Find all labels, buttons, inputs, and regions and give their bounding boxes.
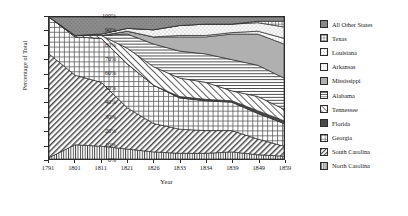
x-tick-mark <box>153 160 154 163</box>
legend-swatch-icon <box>320 162 328 170</box>
x-tick-mark <box>101 160 102 163</box>
y-tick-mark <box>44 146 48 147</box>
legend-item-texas[interactable]: Texas <box>320 31 408 45</box>
legend-swatch-icon <box>320 148 328 156</box>
y-tick-mark <box>44 102 48 103</box>
x-tick-label: 1839 <box>218 164 246 171</box>
y-tick-mark <box>44 88 48 89</box>
y-tick-label: 90% <box>105 27 116 33</box>
legend-label: All Other States <box>332 21 372 28</box>
legend-item-all-other-states[interactable]: All Other States <box>320 17 408 31</box>
x-tick-label: 1859 <box>271 164 299 171</box>
x-axis-label: Year <box>48 178 285 185</box>
legend-item-north-carolina[interactable]: North Carolina <box>320 159 408 173</box>
y-tick-label: 70% <box>105 56 116 62</box>
area-series-group <box>49 17 284 159</box>
legend-swatch-icon <box>320 134 328 142</box>
y-tick-label: 40% <box>105 99 116 105</box>
y-tick-mark <box>44 117 48 118</box>
x-tick-label: 1821 <box>113 164 141 171</box>
y-tick-mark <box>44 16 48 17</box>
x-tick-label: 1811 <box>87 164 115 171</box>
x-tick-mark <box>180 160 181 163</box>
legend-label: Georgia <box>332 134 352 141</box>
y-tick-mark <box>44 30 48 31</box>
legend-item-georgia[interactable]: Georgia <box>320 131 408 145</box>
legend-item-florida[interactable]: Florida <box>320 116 408 130</box>
x-tick-mark <box>74 160 75 163</box>
legend-label: Tennessee <box>332 106 358 113</box>
x-tick-label: 1833 <box>166 164 194 171</box>
x-tick-mark <box>206 160 207 163</box>
legend-label: Texas <box>332 35 347 42</box>
legend-swatch-icon <box>320 34 328 42</box>
y-tick-label: 100% <box>102 13 116 19</box>
y-tick-mark <box>44 131 48 132</box>
y-tick-label: 80% <box>105 42 116 48</box>
legend-item-arkansas[interactable]: Arkansas <box>320 60 408 74</box>
legend-swatch-icon <box>320 119 328 127</box>
x-tick-mark <box>48 160 49 163</box>
chart-legend: All Other StatesTexasLouisianaArkansasMi… <box>320 17 408 173</box>
legend-label: Florida <box>332 120 350 127</box>
legend-item-alabama[interactable]: Alabama <box>320 88 408 102</box>
legend-item-mississippi[interactable]: Mississippi <box>320 74 408 88</box>
x-tick-mark <box>285 160 286 163</box>
legend-swatch-icon <box>320 91 328 99</box>
legend-swatch-icon <box>320 63 328 71</box>
x-tick-label: 1801 <box>60 164 88 171</box>
y-tick-label: 30% <box>105 114 116 120</box>
y-tick-mark <box>44 74 48 75</box>
x-tick-mark <box>232 160 233 163</box>
y-tick-label: 60% <box>105 70 116 76</box>
x-tick-label: 1826 <box>139 164 167 171</box>
x-tick-mark <box>259 160 260 163</box>
legend-item-louisiana[interactable]: Louisiana <box>320 45 408 59</box>
x-tick-label: 1791 <box>34 164 62 171</box>
legend-item-tennessee[interactable]: Tennessee <box>320 102 408 116</box>
legend-label: Alabama <box>332 92 355 99</box>
y-tick-mark <box>44 59 48 60</box>
legend-swatch-icon <box>320 48 328 56</box>
chart-figure: 0%10%20%30%40%50%60%70%80%90%100% Percen… <box>0 0 408 216</box>
stacked-area-svg <box>49 17 284 159</box>
x-tick-mark <box>127 160 128 163</box>
legend-swatch-icon <box>320 77 328 85</box>
plot-area <box>48 16 285 160</box>
y-tick-label: 20% <box>105 128 116 134</box>
x-tick-label: 1849 <box>245 164 273 171</box>
y-tick-label: 0% <box>108 157 116 163</box>
y-tick-label: 10% <box>105 142 116 148</box>
legend-label: North Carolina <box>332 162 370 169</box>
y-tick-label: 50% <box>105 85 116 91</box>
x-tick-label: 1834 <box>192 164 220 171</box>
legend-item-south-carolina[interactable]: South Carolina <box>320 145 408 159</box>
legend-label: Louisiana <box>332 49 357 56</box>
legend-label: Arkansas <box>332 63 355 70</box>
legend-swatch-icon <box>320 20 328 28</box>
legend-label: Mississippi <box>332 77 361 84</box>
legend-swatch-icon <box>320 105 328 113</box>
y-axis-label: Percentage of Total <box>21 18 28 114</box>
legend-label: South Carolina <box>332 148 370 155</box>
y-tick-mark <box>44 45 48 46</box>
